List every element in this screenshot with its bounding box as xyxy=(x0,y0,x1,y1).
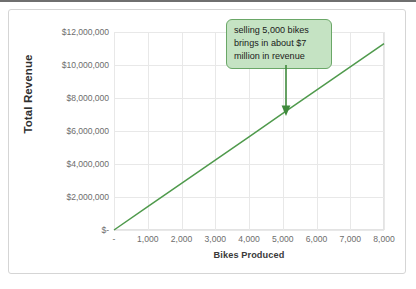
y-axis-tick-label: $12,000,000 xyxy=(25,27,109,37)
gridline-vertical xyxy=(384,32,385,230)
y-axis-tick-label: $10,000,000 xyxy=(25,60,109,70)
y-axis-tick-label: $4,000,000 xyxy=(25,159,109,169)
series-line-total-revenue xyxy=(114,44,384,230)
x-axis-tick-labels: -1,0002,0003,0004,0005,0006,0007,0008,00… xyxy=(114,234,384,248)
page-top-rule xyxy=(0,0,416,2)
annotation-callout-box: selling 5,000 bikesbrings in about $7mil… xyxy=(226,19,332,69)
chart-card: Total Revenue $-$2,000,000$4,000,000$6,0… xyxy=(8,9,406,274)
x-axis-title: Bikes Produced xyxy=(114,250,384,260)
y-axis-tick-label: $8,000,000 xyxy=(25,93,109,103)
y-axis-tick-label: $6,000,000 xyxy=(25,126,109,136)
x-axis-tick-label: 8,000 xyxy=(359,234,409,244)
y-axis-tick-label: $2,000,000 xyxy=(25,192,109,202)
annotation-text-line: brings in about $7 xyxy=(234,37,325,50)
annotation-text-line: million in revenue xyxy=(234,50,325,63)
y-axis-tick-labels: $-$2,000,000$4,000,000$6,000,000$8,000,0… xyxy=(17,32,109,230)
gridline-horizontal xyxy=(114,230,384,231)
annotation-arrow-icon xyxy=(278,65,294,117)
annotation-text-line: selling 5,000 bikes xyxy=(234,24,325,37)
